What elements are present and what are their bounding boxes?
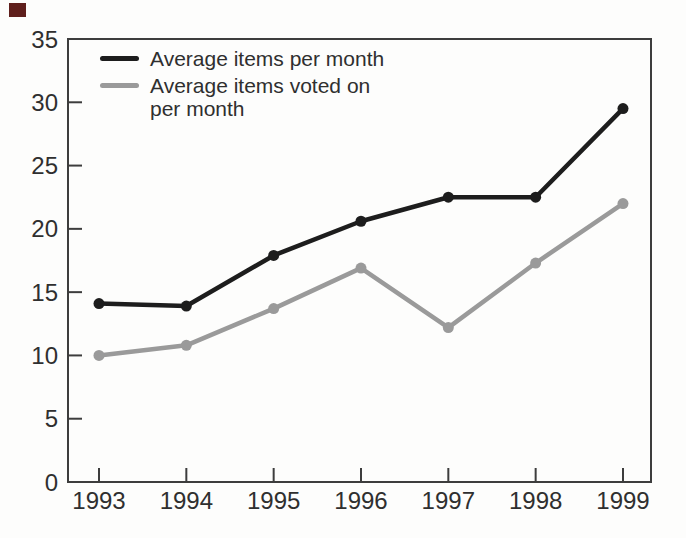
x-axis-tick-label: 1993 (72, 487, 125, 514)
data-point-avg-items (181, 301, 192, 312)
y-axis-tick-label: 10 (31, 342, 58, 369)
legend-item-avg-items: Average items per month (100, 47, 384, 70)
x-axis-tick-label: 1997 (422, 487, 475, 514)
y-axis-tick-label: 5 (45, 405, 58, 432)
chart-page: 0510152025303519931994199519961997199819… (0, 0, 686, 538)
legend: Average items per month Average items vo… (100, 47, 384, 124)
y-axis-tick-label: 15 (31, 279, 58, 306)
legend-label-line: Average items per month (150, 47, 384, 70)
y-axis-tick-label: 35 (31, 26, 58, 53)
data-point-avg-items-voted (94, 350, 105, 361)
y-axis-tick-label: 25 (31, 152, 58, 179)
legend-line-swatch-black (100, 56, 139, 61)
data-point-avg-items (94, 298, 105, 309)
y-axis-tick-label: 30 (31, 89, 58, 116)
legend-line-swatch-gray (100, 83, 139, 88)
x-axis-tick-label: 1998 (509, 487, 562, 514)
data-point-avg-items-voted (443, 322, 454, 333)
data-point-avg-items-voted (617, 198, 628, 209)
data-point-avg-items (617, 103, 628, 114)
legend-label-line: per month (150, 97, 370, 120)
data-point-avg-items-voted (181, 340, 192, 351)
data-point-avg-items-voted (530, 258, 541, 269)
y-axis-tick-label: 0 (45, 469, 58, 496)
data-point-avg-items (355, 216, 366, 227)
data-point-avg-items-voted (268, 303, 279, 314)
x-axis-tick-label: 1996 (334, 487, 387, 514)
data-point-avg-items (443, 192, 454, 203)
legend-label: Average items per month (150, 47, 384, 70)
legend-label: Average items voted on per month (150, 74, 370, 120)
series-line-avg-items (99, 109, 623, 306)
x-axis-tick-label: 1999 (596, 487, 649, 514)
x-axis-tick-label: 1995 (247, 487, 300, 514)
data-point-avg-items-voted (355, 263, 366, 274)
data-point-avg-items (268, 250, 279, 261)
legend-label-line: Average items voted on (150, 74, 370, 97)
y-axis-tick-label: 20 (31, 215, 58, 242)
data-point-avg-items (530, 192, 541, 203)
legend-item-avg-items-voted: Average items voted on per month (100, 74, 384, 120)
x-axis-tick-label: 1994 (160, 487, 213, 514)
